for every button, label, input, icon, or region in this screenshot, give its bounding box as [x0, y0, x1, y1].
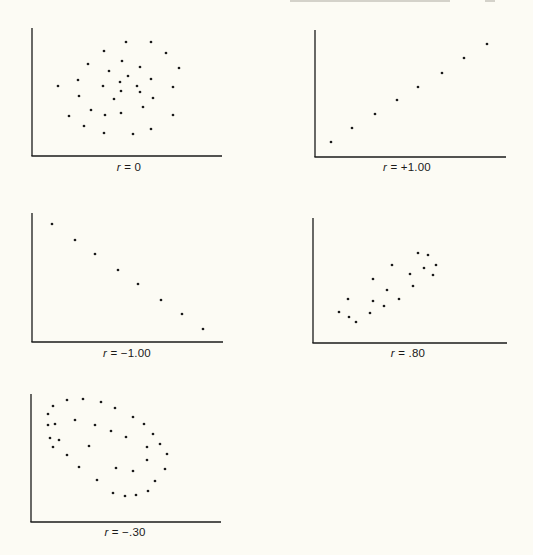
scatterplot-5 — [30, 394, 221, 522]
data-point — [152, 433, 155, 436]
data-point — [146, 459, 149, 462]
data-point — [57, 85, 60, 88]
data-point — [66, 399, 69, 402]
data-point — [369, 312, 372, 315]
data-point — [112, 492, 115, 495]
data-point — [172, 86, 175, 89]
data-point — [147, 490, 150, 493]
data-point — [103, 132, 106, 135]
data-point — [119, 81, 122, 84]
data-point — [347, 298, 350, 301]
data-point — [178, 67, 181, 70]
data-point — [143, 423, 146, 426]
data-point — [432, 274, 435, 277]
data-point — [150, 78, 153, 81]
data-point — [83, 125, 86, 128]
data-point — [351, 127, 354, 130]
data-point — [386, 289, 389, 292]
data-point — [82, 398, 85, 401]
data-point — [78, 95, 81, 98]
data-point — [77, 79, 80, 82]
correlation-label: r = −.30 — [104, 526, 145, 538]
data-point — [463, 57, 466, 60]
r-value: = −1.00 — [107, 347, 151, 359]
data-point — [409, 273, 412, 276]
data-point — [139, 91, 142, 94]
data-point — [435, 264, 438, 267]
data-point — [125, 436, 128, 439]
data-point — [160, 299, 163, 302]
data-point — [164, 468, 167, 471]
data-point — [355, 321, 358, 324]
data-point — [202, 328, 205, 331]
data-point — [102, 85, 105, 88]
data-point — [74, 419, 77, 422]
data-point — [52, 446, 55, 449]
r-value: = 0 — [121, 161, 141, 173]
data-point — [120, 90, 123, 93]
data-point — [172, 114, 175, 117]
data-point — [154, 480, 157, 483]
r-value: = −.30 — [108, 526, 145, 538]
data-point — [142, 106, 145, 109]
data-point — [152, 97, 155, 100]
data-point — [100, 401, 103, 404]
data-point — [441, 72, 444, 75]
data-point — [159, 443, 162, 446]
data-point — [124, 495, 127, 498]
data-point — [127, 75, 130, 78]
correlation-label: r = +1.00 — [383, 161, 431, 173]
scatterplot-figure — [0, 0, 533, 555]
data-point — [113, 98, 116, 101]
data-point — [115, 467, 118, 470]
data-point — [181, 313, 184, 316]
data-point — [51, 223, 54, 226]
data-point — [417, 86, 420, 89]
r-value: = .80 — [395, 347, 425, 359]
data-point — [374, 113, 377, 116]
scatterplot-3 — [31, 213, 223, 342]
data-point — [427, 254, 430, 257]
data-point — [104, 114, 107, 117]
data-point — [398, 298, 401, 301]
data-point — [132, 133, 135, 136]
data-point — [348, 316, 351, 319]
data-point — [121, 60, 124, 63]
data-point — [47, 424, 50, 427]
data-point — [78, 466, 81, 469]
data-point — [165, 52, 168, 55]
data-point — [338, 311, 341, 314]
correlation-label: r = .80 — [391, 347, 425, 359]
data-point — [423, 267, 426, 270]
data-point — [135, 494, 138, 497]
data-point — [114, 407, 117, 410]
data-point — [412, 285, 415, 288]
data-point — [68, 115, 71, 118]
correlation-label: r = 0 — [117, 161, 141, 173]
data-point — [52, 405, 55, 408]
data-point — [120, 112, 123, 115]
data-point — [58, 439, 61, 442]
data-point — [132, 416, 135, 419]
data-point — [396, 99, 399, 102]
data-point — [87, 63, 90, 66]
data-point — [96, 479, 99, 482]
data-point — [90, 109, 93, 112]
data-point — [486, 43, 489, 46]
data-point — [88, 445, 91, 448]
data-point — [391, 264, 394, 267]
scatterplot-2 — [314, 30, 506, 157]
data-point — [54, 423, 57, 426]
data-point — [74, 239, 77, 242]
data-point — [383, 305, 386, 308]
data-point — [47, 413, 50, 416]
data-point — [150, 128, 153, 131]
data-point — [117, 269, 120, 272]
data-point — [417, 252, 420, 255]
data-point — [137, 283, 140, 286]
data-point — [330, 141, 333, 144]
scatterplot-4 — [312, 218, 507, 343]
data-point — [103, 50, 106, 53]
scatterplot-1 — [31, 28, 222, 156]
r-value: = +1.00 — [387, 161, 431, 173]
